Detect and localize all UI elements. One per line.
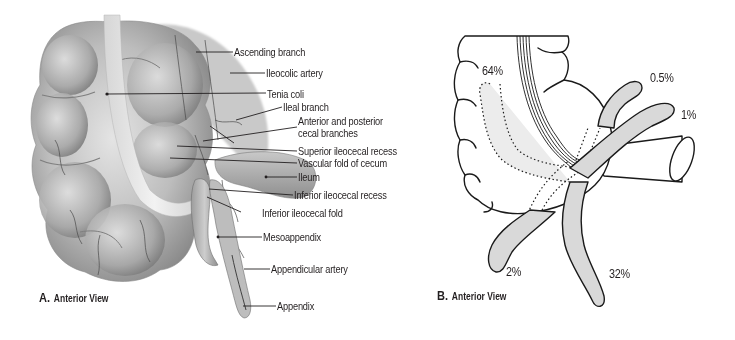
cecum-outline [454,36,611,214]
caption-panel-b: B. Anterior View [437,286,506,304]
caption-text: Anterior View [54,293,109,304]
appendix-pelvic [562,182,604,306]
caption-text: Anterior View [452,291,507,302]
label-cecal-branches: cecal branches [298,127,358,139]
appendix-subcecal [489,210,555,272]
label-tenia-coli: Tenia coli [267,88,304,100]
panel-b-appendix-positions: 64% 0.5% 1% 2% 32% B. Anterior View [420,0,735,340]
pct-retrocecal: 64% [482,64,503,78]
label-inferior-ileocecal-recess: Inferior ileocecal recess [294,189,387,201]
label-superior-ileocecal-recess: Superior ileocecal recess [298,145,397,157]
pct-preileal: 0.5% [650,71,674,85]
caption-letter: B. [437,288,448,303]
panel-a-anterior-view: Ascending branch Ileocolic artery Tenia … [0,0,420,340]
label-ileal-branch: Ileal branch [283,101,329,113]
label-ileum: Ileum [298,171,320,183]
label-vascular-fold-of-cecum: Vascular fold of cecum [298,157,387,169]
label-mesoappendix: Mesoappendix [263,231,321,243]
caption-letter: A. [39,290,50,305]
label-anterior-posterior: Anterior and posterior [298,115,383,127]
pct-postileal: 1% [681,108,696,122]
pct-pelvic: 32% [609,267,630,281]
label-ascending-branch: Ascending branch [234,46,305,58]
label-inferior-ileocecal-fold: Inferior ileocecal fold [262,207,343,219]
label-appendix: Appendix [277,300,314,312]
pct-subcecal: 2% [506,265,521,279]
label-ileocolic-artery: Ileocolic artery [266,67,323,79]
caption-panel-a: A. Anterior View [39,288,108,306]
label-appendicular-artery: Appendicular artery [271,263,348,275]
